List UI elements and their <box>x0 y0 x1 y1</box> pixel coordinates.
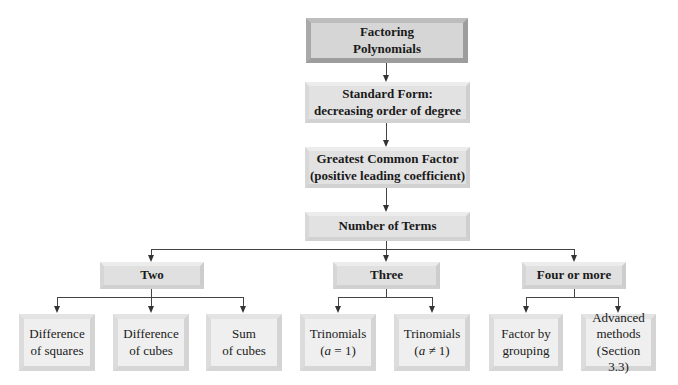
arrow-icon <box>383 75 389 82</box>
arrow-icon <box>429 306 435 313</box>
edge-standard-gcf <box>386 122 387 141</box>
arrow-icon <box>54 306 60 313</box>
relation: ≠ 1 <box>425 343 445 358</box>
arrow-icon <box>523 306 529 313</box>
three-bar <box>338 297 433 298</box>
node-difference-of-squares: Difference of squares <box>19 314 95 371</box>
node-label: Difference <box>123 326 178 342</box>
node-number-of-terms: Number of Terms <box>305 212 470 241</box>
node-label: decreasing order of degree <box>314 103 461 119</box>
arrow-icon <box>571 255 577 262</box>
node-gcf: Greatest Common Factor (positive leading… <box>305 147 470 188</box>
node-label: (Section 3.3) <box>586 343 651 376</box>
node-advanced-methods: Advanced methods (Section 3.3) <box>581 314 656 371</box>
node-label: Difference <box>29 326 84 342</box>
edge-two-down <box>151 288 152 297</box>
node-label: Trinomials <box>310 326 367 342</box>
node-sum-of-cubes: Sum of cubes <box>206 314 282 371</box>
node-standard-form: Standard Form: decreasing order of degre… <box>305 82 470 123</box>
node-label: (positive leading coefficient) <box>310 168 465 184</box>
node-trinomials-a-equals-1: Trinomials (a = 1) <box>300 314 376 371</box>
node-difference-of-cubes: Difference of cubes <box>113 314 189 371</box>
node-trinomials-a-not-1: Trinomials (a ≠ 1) <box>394 314 470 371</box>
node-label: Standard Form: <box>314 86 461 102</box>
arrow-icon <box>148 255 154 262</box>
node-label: Polynomials <box>353 41 421 57</box>
node-label: of squares <box>29 343 84 359</box>
node-label: Trinomials <box>404 326 461 342</box>
node-label: Four or more <box>537 267 611 283</box>
node-factoring-polynomials: Factoring Polynomials <box>306 18 468 63</box>
edge-four-down <box>574 288 575 297</box>
edge-three-down <box>386 288 387 297</box>
node-factor-by-grouping: Factor by grouping <box>489 314 563 371</box>
arrow-icon <box>383 140 389 147</box>
node-label: Greatest Common Factor <box>310 151 465 167</box>
branch-bar <box>151 249 575 250</box>
arrow-icon <box>335 306 341 313</box>
arrow-icon <box>240 306 246 313</box>
node-label: Sum <box>222 326 266 342</box>
arrow-icon <box>383 205 389 212</box>
arrow-icon <box>148 306 154 313</box>
node-four-or-more: Four or more <box>522 262 626 289</box>
node-label: Advanced <box>586 310 651 326</box>
node-label: of cubes <box>123 343 178 359</box>
four-bar <box>526 297 619 298</box>
node-label: Factor by <box>501 326 550 342</box>
node-label: methods <box>586 326 651 342</box>
node-condition: (a = 1) <box>310 343 367 359</box>
node-label: Two <box>140 267 164 283</box>
node-three: Three <box>333 262 440 289</box>
node-two: Two <box>100 262 204 289</box>
edge-terms-down <box>386 240 387 249</box>
node-label: of cubes <box>222 343 266 359</box>
edge-gcf-terms <box>386 187 387 206</box>
node-label: Number of Terms <box>339 218 437 234</box>
relation: = 1 <box>331 343 351 358</box>
node-label: Three <box>370 267 403 283</box>
node-label: grouping <box>501 343 550 359</box>
node-label: Factoring <box>353 24 421 40</box>
arrow-icon <box>383 255 389 262</box>
edge-root-standard <box>386 62 387 76</box>
node-condition: (a ≠ 1) <box>404 343 461 359</box>
